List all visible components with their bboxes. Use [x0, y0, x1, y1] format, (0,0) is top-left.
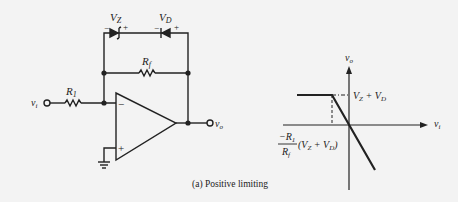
r1-label: R1: [65, 85, 77, 99]
feedback-top-wire: [104, 33, 188, 73]
input-label: vi: [31, 97, 37, 110]
diode-icon: [162, 29, 170, 37]
rf-label: Rf: [141, 55, 153, 69]
y-axis-label: vo: [345, 52, 353, 65]
zener-diode-icon: [110, 29, 118, 37]
diode-minus: −: [154, 23, 159, 33]
zener-label: VZ: [110, 11, 122, 25]
op-amp-icon: [116, 93, 176, 160]
figure-caption: (a) Positive limiting: [192, 179, 268, 190]
svg-text:(VZ + VD): (VZ + VD): [298, 139, 338, 152]
r1-resistor-icon: [65, 100, 81, 106]
zener-plus: +: [123, 22, 128, 32]
inverting-input-sign: −: [118, 98, 124, 110]
y-axis-arrow-icon: [346, 66, 352, 74]
svg-text:Rf: Rf: [281, 146, 291, 159]
transfer-curve: [297, 95, 375, 170]
diode-label: VD: [159, 11, 172, 25]
positive-limiter-diagram: VZ − + VD − + Rf R1 vi vo − + vo vi VZ +…: [0, 0, 458, 202]
output-label: vo: [215, 118, 223, 131]
rf-resistor-icon: [139, 70, 155, 76]
x-axis-arrow-icon: [420, 122, 428, 128]
diode-plus: +: [174, 22, 179, 32]
limit-level-label: VZ + VD: [353, 90, 386, 103]
noninverting-input-sign: +: [118, 142, 124, 154]
zener-minus: −: [104, 23, 109, 33]
svg-text:−R1: −R1: [279, 131, 295, 144]
output-terminal: [207, 120, 213, 126]
breakpoint-label: −R1 Rf (VZ + VD): [278, 131, 338, 159]
x-axis-label: vi: [434, 118, 440, 131]
input-terminal: [44, 100, 50, 106]
